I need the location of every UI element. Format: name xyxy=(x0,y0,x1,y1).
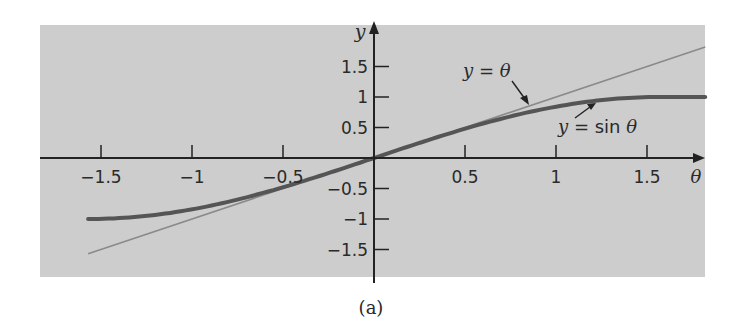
plot-background xyxy=(40,25,705,277)
y-tick-label: 1.5 xyxy=(341,57,368,77)
y-tick-label: −1 xyxy=(343,209,368,229)
y-tick-label: −0.5 xyxy=(327,179,368,199)
y-tick-label: −1.5 xyxy=(327,240,368,260)
x-tick-label: −1.5 xyxy=(80,167,121,187)
x-tick-label: 1.5 xyxy=(633,167,660,187)
y-axis-label: y xyxy=(354,20,366,42)
x-tick-label: −1 xyxy=(179,167,204,187)
annotation-y-equals-sin-theta: y = sin θ xyxy=(557,116,637,137)
figure: −1.5−1−0.50.511.51.510.5−0.5−1−1.5yθy = … xyxy=(0,0,742,335)
x-tick-label: 1 xyxy=(551,167,562,187)
annotation-y-equals-theta: y = θ xyxy=(462,60,511,81)
figure-caption: (a) xyxy=(0,297,742,318)
x-tick-label: 0.5 xyxy=(451,167,478,187)
x-axis-label: θ xyxy=(691,166,702,187)
y-tick-label: 1 xyxy=(357,87,368,107)
plot-area: −1.5−1−0.50.511.51.510.5−0.5−1−1.5yθy = … xyxy=(0,0,742,335)
y-tick-label: 0.5 xyxy=(341,118,368,138)
x-tick-label: −0.5 xyxy=(262,167,303,187)
